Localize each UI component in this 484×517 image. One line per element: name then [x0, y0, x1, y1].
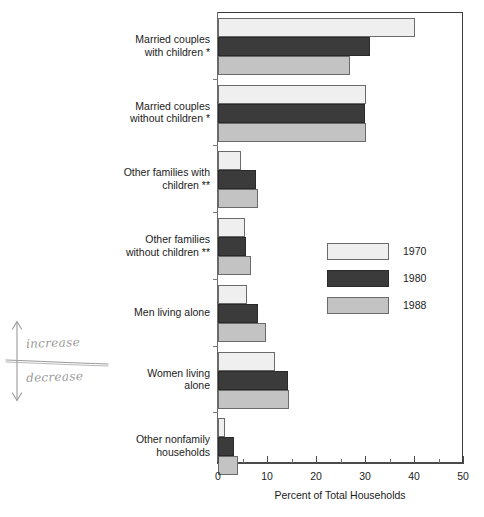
annotation-ink [4, 312, 112, 412]
x-tick-label-50: 50 [457, 470, 469, 482]
category-label-5: Men living alone [98, 306, 210, 319]
bar-1970-1 [218, 18, 415, 37]
x-tick-0 [218, 456, 219, 463]
category-label-4: Other familieswithout children ** [98, 233, 210, 258]
annotation-increase-label: increase [26, 335, 80, 351]
x-minor-tick-5 [243, 459, 244, 463]
category-label-line: alone [98, 379, 210, 392]
bar-1988-5 [218, 323, 266, 342]
bar-1970-2 [218, 85, 366, 104]
bar-1988-1 [218, 56, 350, 75]
category-label-6: Women livingalone [98, 367, 210, 392]
legend: 197019801988 [327, 243, 449, 323]
category-label-line: Other families with [98, 166, 210, 179]
legend-swatch-1970 [327, 243, 389, 260]
group-separator-tick [213, 212, 218, 213]
bar-1970-7 [218, 418, 225, 437]
bar-1980-6 [218, 371, 288, 390]
bar-1980-1 [218, 37, 370, 56]
category-labels: Married coupleswith children *Married co… [98, 0, 210, 517]
bar-1980-4 [218, 237, 246, 256]
category-label-3: Other families withchildren ** [98, 166, 210, 191]
group-separator-tick [213, 79, 218, 80]
bar-1988-3 [218, 189, 258, 208]
x-tick-50 [463, 456, 464, 463]
x-minor-tick-35 [390, 459, 391, 463]
x-tick-label-20: 20 [310, 470, 322, 482]
group-separator-tick [213, 145, 218, 146]
legend-item-1988: 1988 [327, 297, 449, 317]
category-label-line: without children ** [98, 246, 210, 259]
category-label-line: Men living alone [98, 306, 210, 319]
x-minor-tick-15 [292, 459, 293, 463]
x-tick-40 [414, 456, 415, 463]
x-minor-tick-45 [439, 459, 440, 463]
category-label-line: Other families [98, 233, 210, 246]
x-tick-label-40: 40 [408, 470, 420, 482]
legend-label-1980: 1980 [403, 272, 426, 284]
legend-label-1988: 1988 [403, 299, 426, 311]
x-tick-label-0: 0 [215, 470, 221, 482]
bar-1970-3 [218, 151, 241, 170]
x-tick-30 [365, 456, 366, 463]
bar-1970-5 [218, 285, 247, 304]
category-label-line: children ** [98, 179, 210, 192]
bar-1980-2 [218, 104, 365, 123]
x-tick-label-30: 30 [359, 470, 371, 482]
category-label-line: Married couples [98, 33, 210, 46]
category-label-line: Other nonfamily [98, 433, 210, 446]
bar-chart: 01020304050 Married coupleswith children… [0, 0, 484, 517]
legend-swatch-1980 [327, 270, 389, 287]
bar-1980-7 [218, 437, 234, 456]
legend-item-1970: 1970 [327, 243, 449, 263]
category-label-2: Married coupleswithout children * [98, 100, 210, 125]
legend-item-1980: 1980 [327, 270, 449, 290]
bar-1988-4 [218, 256, 251, 275]
bar-1988-6 [218, 390, 289, 409]
bar-1980-3 [218, 170, 256, 189]
legend-swatch-1988 [327, 297, 389, 314]
x-tick-label-10: 10 [261, 470, 273, 482]
x-minor-tick-25 [341, 459, 342, 463]
group-separator-tick [213, 346, 218, 347]
handwritten-annotation: increase decrease [4, 312, 112, 412]
bar-1988-2 [218, 123, 366, 142]
bar-1980-5 [218, 304, 258, 323]
category-label-line: without children * [98, 112, 210, 125]
category-label-line: Married couples [98, 100, 210, 113]
category-label-line: with children * [98, 46, 210, 59]
category-label-line: households [98, 446, 210, 459]
group-separator-tick [213, 279, 218, 280]
x-tick-10 [267, 456, 268, 463]
category-label-7: Other nonfamilyhouseholds [98, 433, 210, 458]
bar-1970-4 [218, 218, 245, 237]
category-label-1: Married coupleswith children * [98, 33, 210, 58]
category-label-line: Women living [98, 367, 210, 380]
legend-label-1970: 1970 [403, 245, 426, 257]
annotation-decrease-label: decrease [26, 369, 84, 385]
x-tick-20 [316, 456, 317, 463]
bar-1970-6 [218, 352, 275, 371]
group-separator-tick [213, 412, 218, 413]
x-axis-title: Percent of Total Households [217, 489, 463, 501]
